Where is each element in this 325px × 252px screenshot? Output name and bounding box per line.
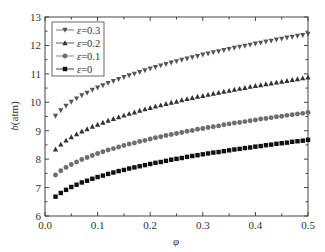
data-point xyxy=(211,50,216,55)
data-point xyxy=(100,149,105,154)
data-point xyxy=(274,142,278,146)
data-point xyxy=(295,111,300,116)
data-point xyxy=(253,83,258,88)
data-point xyxy=(127,166,131,170)
x-tick-label: 0.3 xyxy=(196,219,210,231)
legend-value: =0 xyxy=(81,64,92,75)
data-point xyxy=(195,94,200,99)
data-point xyxy=(111,79,116,84)
data-point xyxy=(148,105,153,110)
data-point xyxy=(237,120,242,125)
y-tick-label: 12 xyxy=(30,39,41,51)
data-point xyxy=(284,78,289,83)
data-point xyxy=(53,146,58,151)
data-point xyxy=(227,88,232,93)
data-point xyxy=(127,111,132,116)
x-tick-label: 0.1 xyxy=(91,219,105,231)
data-point xyxy=(158,102,163,107)
data-point xyxy=(121,113,126,118)
legend-value: =0.1 xyxy=(81,51,100,62)
data-point xyxy=(290,112,295,117)
data-point xyxy=(111,170,115,174)
data-point xyxy=(295,76,300,81)
data-point xyxy=(158,134,163,139)
data-point xyxy=(137,108,142,113)
data-point xyxy=(90,88,95,93)
data-point xyxy=(169,132,174,137)
data-point xyxy=(111,116,116,121)
data-point xyxy=(284,36,289,41)
data-point xyxy=(221,89,226,94)
data-point xyxy=(258,82,263,87)
data-point xyxy=(116,144,121,149)
data-point xyxy=(158,63,163,68)
data-point xyxy=(205,51,210,56)
data-point xyxy=(143,163,147,167)
data-point xyxy=(248,145,252,149)
data-point xyxy=(248,118,253,123)
data-point xyxy=(121,143,126,148)
data-point xyxy=(232,87,237,92)
data-point xyxy=(58,108,63,113)
y-tick-label: 6 xyxy=(36,210,42,222)
y-tick-label: 13 xyxy=(30,11,42,23)
data-point xyxy=(190,154,194,158)
data-point xyxy=(90,124,95,129)
data-point xyxy=(90,177,94,181)
data-point xyxy=(216,150,220,154)
data-point xyxy=(58,168,63,173)
x-axis-title: φ xyxy=(173,235,179,247)
data-point xyxy=(190,128,195,133)
data-point xyxy=(300,33,305,38)
data-point xyxy=(63,104,68,109)
data-point xyxy=(53,194,57,198)
data-point xyxy=(84,126,89,131)
data-point xyxy=(274,114,279,119)
data-point xyxy=(222,149,226,153)
data-point xyxy=(180,156,184,160)
legend-label: ε=0 xyxy=(77,64,92,75)
legend-marker xyxy=(63,54,68,59)
data-point xyxy=(258,117,263,122)
data-point xyxy=(69,100,74,105)
data-point xyxy=(232,46,237,51)
data-point xyxy=(184,96,189,101)
x-tick-label: 0.4 xyxy=(249,219,263,231)
data-point xyxy=(174,157,178,161)
y-tick-label: 9 xyxy=(36,125,42,137)
data-point xyxy=(58,142,63,147)
data-point xyxy=(195,153,199,157)
data-point xyxy=(195,127,200,132)
data-point xyxy=(84,91,89,96)
y-axis-title: b(atm) xyxy=(8,101,21,131)
data-point xyxy=(200,126,205,131)
legend-marker xyxy=(63,67,67,71)
data-point xyxy=(274,38,279,43)
data-point xyxy=(248,84,253,89)
data-point xyxy=(263,81,268,86)
data-point xyxy=(306,138,310,142)
data-point xyxy=(279,79,284,84)
data-point xyxy=(269,81,274,86)
data-point xyxy=(90,153,95,158)
data-point xyxy=(300,111,305,116)
data-point xyxy=(79,157,84,162)
data-point xyxy=(153,65,158,70)
data-point xyxy=(290,35,295,40)
data-point xyxy=(195,54,200,59)
data-point xyxy=(253,117,258,122)
data-point xyxy=(137,164,141,168)
data-point xyxy=(211,124,216,129)
data-point xyxy=(169,100,174,105)
data-point xyxy=(142,106,147,111)
series-eps-0 xyxy=(53,138,310,199)
data-point xyxy=(127,73,132,78)
y-tick-label: 7 xyxy=(36,182,42,194)
data-point xyxy=(290,140,294,144)
legend-label: ε=0.3 xyxy=(77,25,100,36)
data-point xyxy=(205,92,210,97)
data-point xyxy=(200,53,205,58)
data-point xyxy=(69,185,73,189)
data-point xyxy=(190,55,195,60)
data-point xyxy=(237,45,242,50)
